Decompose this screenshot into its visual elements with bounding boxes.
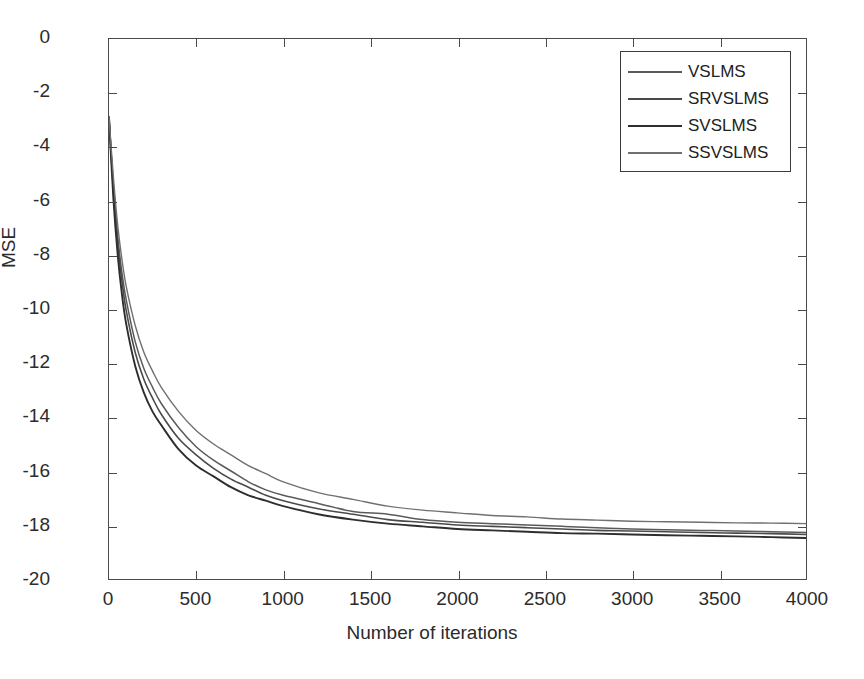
y-tick-label: -16 [0,460,50,482]
x-axis-tick [459,571,460,579]
legend-label: VSLMS [688,63,746,80]
x-axis-tick-top [284,39,285,47]
x-axis-tick-top [371,39,372,47]
x-tick-label: 2500 [500,588,590,610]
y-axis-tick-right [798,364,806,365]
x-axis-tick [196,571,197,579]
figure-canvas: 0-2-4-6-8-10-12-14-16-18-20 050010001500… [0,0,864,679]
x-axis-tick [546,571,547,579]
y-axis-tick-right [798,527,806,528]
y-tick-label: -4 [0,134,50,156]
x-axis-title: Number of iterations [0,622,864,644]
x-tick-label: 1000 [238,588,328,610]
y-axis-tick-right [798,310,806,311]
x-axis-tick-top [196,39,197,47]
y-axis-tick [109,473,117,474]
legend-label: SVSLMS [688,117,757,134]
x-tick-label: 4000 [762,588,852,610]
legend-item-vslms[interactable]: VSLMS [621,58,790,85]
x-tick-label: 0 [63,588,153,610]
legend-line-swatch [628,125,682,127]
y-axis-tick-right [798,473,806,474]
legend-label: SRVSLMS [688,90,769,107]
y-axis-tick [109,527,117,528]
x-tick-label: 1500 [325,588,415,610]
legend-item-srvslms[interactable]: SRVSLMS [621,85,790,112]
x-axis-tick [633,571,634,579]
y-axis-tick-right [798,147,806,148]
x-axis-tick-top [459,39,460,47]
x-axis-tick-top [633,39,634,47]
legend-line-swatch [628,98,682,100]
y-axis-tick [109,147,117,148]
x-axis-tick-top [721,39,722,47]
y-tick-label: -14 [0,405,50,427]
legend-box: VSLMSSRVSLMSSVSLMSSSVSLMS [620,51,791,172]
series-line-vslms [109,117,806,532]
x-tick-label: 2000 [413,588,503,610]
y-tick-label: -6 [0,189,50,211]
y-axis-tick [109,364,117,365]
y-tick-label: -12 [0,351,50,373]
y-tick-label: -18 [0,514,50,536]
y-axis-tick-right [798,93,806,94]
y-axis-tick-right [798,202,806,203]
series-line-srvslms [109,117,806,534]
y-axis-tick [109,310,117,311]
y-axis-tick [109,256,117,257]
legend-item-svslms[interactable]: SVSLMS [621,112,790,139]
y-tick-label: 0 [0,26,50,48]
series-line-ssvslms [109,117,806,523]
x-tick-label: 3000 [587,588,677,610]
y-axis-tick [109,93,117,94]
x-tick-label: 3500 [675,588,765,610]
y-axis-tick-right [798,418,806,419]
x-axis-tick [284,571,285,579]
legend-line-swatch [628,71,682,73]
y-axis-tick-right [798,256,806,257]
x-axis-tick [371,571,372,579]
series-line-svslms [109,117,806,538]
legend-line-swatch [628,152,682,154]
y-axis-tick [109,202,117,203]
y-axis-tick [109,418,117,419]
legend-label: SSVSLMS [688,144,768,161]
legend-item-ssvslms[interactable]: SSVSLMS [621,139,790,166]
y-tick-label: -2 [0,80,50,102]
y-axis-title: MSE [0,227,20,268]
y-tick-label: -20 [0,568,50,590]
x-axis-tick-top [546,39,547,47]
y-tick-label: -10 [0,297,50,319]
x-axis-tick [721,571,722,579]
x-tick-label: 500 [150,588,240,610]
